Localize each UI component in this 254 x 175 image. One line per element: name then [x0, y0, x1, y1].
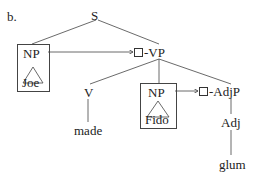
empty-square-icon [199, 87, 208, 96]
figure-label: b. [7, 10, 17, 23]
node-vp: -VP [134, 46, 165, 59]
node-v: V [84, 86, 93, 99]
word-glum: glum [219, 158, 246, 171]
node-s: S [91, 9, 98, 22]
empty-square-icon [134, 48, 143, 57]
word-fido: Fido [145, 113, 169, 126]
node-np-object: NP [148, 86, 165, 99]
word-made: made [74, 124, 102, 137]
node-adj: Adj [221, 116, 241, 129]
node-adjp: -AdjP [199, 85, 240, 98]
node-np-subject: NP [23, 47, 40, 60]
word-joe: Joe [22, 76, 39, 89]
